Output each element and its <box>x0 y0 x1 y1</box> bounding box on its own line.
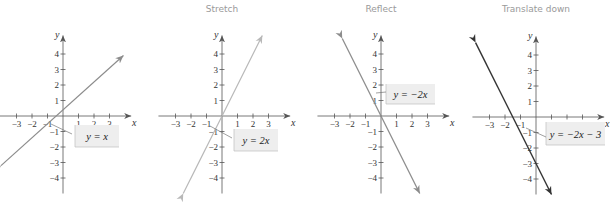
x-tick-label: 3 <box>266 119 271 129</box>
equation-label: y = −2x − 3 <box>549 129 602 140</box>
y-tick-label: −1 <box>367 127 377 137</box>
y-tick-label: 3 <box>214 65 219 75</box>
y-tick-label: 2 <box>214 80 219 90</box>
y-tick-label: 2 <box>528 81 533 91</box>
y-tick-label: −2 <box>49 142 59 152</box>
x-tick-label: 3 <box>425 119 430 129</box>
y-tick-label: −3 <box>522 159 532 169</box>
graph-panel-4: Translate downxy−3−2−11234321−1−2−3−4y =… <box>472 4 610 195</box>
y-tick-label: −4 <box>49 173 59 183</box>
x-tick-label: 2 <box>251 119 256 129</box>
graph-figure: xy−3−2−11234321−1−2−3−4y = xStretchxy−3−… <box>0 0 612 208</box>
y-axis-label: y <box>372 29 378 40</box>
x-tick-label: 2 <box>410 119 415 129</box>
y-axis-label: y <box>54 29 60 40</box>
equation-label: y = 2x <box>242 135 270 146</box>
panel-title: Stretch <box>206 4 238 14</box>
x-tick-label: 1 <box>235 119 240 129</box>
function-line <box>1 56 123 166</box>
y-tick-label: −1 <box>522 128 532 138</box>
x-axis-label: x <box>449 117 455 128</box>
function-line <box>183 35 262 193</box>
y-tick-label: −3 <box>367 158 377 168</box>
panel-title: Translate down <box>501 4 570 14</box>
y-tick-label: 2 <box>373 80 378 90</box>
y-tick-label: 1 <box>528 97 533 107</box>
leader-line <box>376 92 386 93</box>
y-tick-label: 4 <box>528 50 533 60</box>
panel-title: Reflect <box>365 4 397 14</box>
y-tick-label: 2 <box>55 80 60 90</box>
function-line <box>476 43 552 195</box>
y-tick-label: −2 <box>367 142 377 152</box>
y-tick-label: 3 <box>528 66 533 76</box>
y-axis-label: y <box>527 30 533 41</box>
y-tick-label: 4 <box>214 49 219 59</box>
graph-panel-3: Reflectxy−3−2−11234321−1−2−3−4y = −2x <box>317 4 455 194</box>
y-tick-label: −1 <box>49 127 59 137</box>
graph-panel-1: xy−3−2−11234321−1−2−3−4y = x <box>0 29 137 194</box>
y-tick-label: −3 <box>49 158 59 168</box>
y-tick-label: −4 <box>367 173 377 183</box>
x-tick-label: −3 <box>330 119 340 129</box>
y-tick-label: 1 <box>55 96 60 106</box>
y-axis-label: y <box>213 29 219 40</box>
x-tick-label: −2 <box>345 119 355 129</box>
x-tick-label: −3 <box>485 120 495 130</box>
x-axis-label: x <box>131 117 137 128</box>
graph-panel-2: Stretchxy−3−2−11234321−1−2−3−4y = 2x <box>158 4 296 194</box>
x-tick-label: 1 <box>394 119 399 129</box>
x-tick-label: −2 <box>27 119 37 129</box>
x-tick-label: −2 <box>500 120 510 130</box>
y-tick-label: −4 <box>522 174 532 184</box>
y-tick-label: 3 <box>373 65 378 75</box>
equation-label: y = −2x <box>393 89 428 100</box>
y-tick-label: 4 <box>373 49 378 59</box>
x-tick-label: −3 <box>171 119 181 129</box>
y-tick-label: −4 <box>208 173 218 183</box>
y-tick-label: 1 <box>214 96 219 106</box>
equation-label: y = x <box>85 131 108 142</box>
y-tick-label: −3 <box>208 158 218 168</box>
y-tick-label: −2 <box>208 142 218 152</box>
y-tick-label: 3 <box>55 65 60 75</box>
x-tick-label: −2 <box>186 119 196 129</box>
x-tick-label: −3 <box>12 119 22 129</box>
x-axis-label: x <box>290 117 296 128</box>
y-tick-label: 4 <box>55 49 60 59</box>
